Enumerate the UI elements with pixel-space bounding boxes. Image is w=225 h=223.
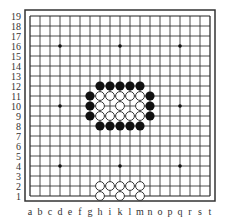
black-stone-h12[interactable]	[95, 81, 104, 90]
white-stone-k11[interactable]	[116, 92, 125, 101]
column-label-r: r	[188, 206, 192, 217]
black-stone-k8[interactable]	[115, 121, 124, 130]
row-label-14: 14	[11, 61, 21, 72]
column-label-g: g	[88, 206, 93, 217]
column-label-e: e	[68, 206, 73, 217]
row-label-13: 13	[11, 71, 21, 82]
white-stone-l9[interactable]	[126, 112, 135, 121]
go-board[interactable]: 12345678910111213141516171819 abcdefghik…	[0, 0, 225, 223]
white-stone-k1[interactable]	[116, 192, 125, 201]
white-stone-m11[interactable]	[136, 92, 145, 101]
row-label-7: 7	[16, 131, 21, 142]
white-stone-i11[interactable]	[106, 92, 115, 101]
row-label-11: 11	[11, 91, 21, 102]
black-stone-l12[interactable]	[125, 81, 134, 90]
white-stone-m1[interactable]	[136, 192, 145, 201]
white-stone-k10[interactable]	[116, 102, 125, 111]
row-labels: 12345678910111213141516171819	[11, 11, 21, 202]
column-label-q: q	[178, 206, 183, 217]
black-stone-k12[interactable]	[115, 81, 124, 90]
white-stone-h10[interactable]	[96, 102, 105, 111]
white-stone-l2[interactable]	[126, 182, 135, 191]
white-stone-m2[interactable]	[136, 182, 145, 191]
black-stone-m12[interactable]	[135, 81, 144, 90]
row-label-12: 12	[11, 81, 21, 92]
white-stone-l11[interactable]	[126, 92, 135, 101]
row-label-4: 4	[16, 161, 21, 172]
row-label-2: 2	[16, 181, 21, 192]
row-label-19: 19	[11, 11, 21, 22]
column-label-s: s	[198, 206, 202, 217]
black-stone-g10[interactable]	[85, 101, 94, 110]
black-stone-n11[interactable]	[145, 91, 154, 100]
black-stone-g9[interactable]	[85, 111, 94, 120]
star-point-q10	[178, 104, 182, 108]
white-stone-i9[interactable]	[106, 112, 115, 121]
star-point-d10	[58, 104, 62, 108]
white-stone-k9[interactable]	[116, 112, 125, 121]
black-stone-n10[interactable]	[145, 101, 154, 110]
column-label-a: a	[28, 206, 33, 217]
column-label-c: c	[48, 206, 53, 217]
white-stone-h1[interactable]	[96, 192, 105, 201]
row-label-18: 18	[11, 21, 21, 32]
row-label-15: 15	[11, 51, 21, 62]
black-stone-n9[interactable]	[145, 111, 154, 120]
column-labels: abcdefghiklmnopqrst	[28, 206, 212, 217]
black-stone-i8[interactable]	[105, 121, 114, 130]
star-point-d16	[58, 44, 62, 48]
column-label-d: d	[58, 206, 63, 217]
column-label-i: i	[109, 206, 112, 217]
star-point-d4	[58, 164, 62, 168]
black-stone-i12[interactable]	[105, 81, 114, 90]
star-point-q4	[178, 164, 182, 168]
row-label-3: 3	[16, 171, 21, 182]
row-label-16: 16	[11, 41, 21, 52]
row-label-17: 17	[11, 31, 21, 42]
column-label-h: h	[98, 206, 103, 217]
star-point-k4	[118, 164, 122, 168]
column-label-n: n	[148, 206, 153, 217]
column-label-k: k	[118, 206, 123, 217]
black-stone-g11[interactable]	[85, 91, 94, 100]
row-label-1: 1	[16, 191, 21, 202]
white-stone-m10[interactable]	[136, 102, 145, 111]
column-label-t: t	[209, 206, 212, 217]
row-label-10: 10	[11, 101, 21, 112]
white-stone-k2[interactable]	[116, 182, 125, 191]
column-label-m: m	[136, 206, 144, 217]
column-label-o: o	[158, 206, 163, 217]
black-stone-m8[interactable]	[135, 121, 144, 130]
row-label-9: 9	[16, 111, 21, 122]
row-label-5: 5	[16, 151, 21, 162]
white-stone-i2[interactable]	[106, 182, 115, 191]
black-stone-l8[interactable]	[125, 121, 134, 130]
star-point-q16	[178, 44, 182, 48]
row-label-6: 6	[16, 141, 21, 152]
column-label-b: b	[38, 206, 43, 217]
row-label-8: 8	[16, 121, 21, 132]
column-label-p: p	[168, 206, 173, 217]
white-stone-h11[interactable]	[96, 92, 105, 101]
column-label-l: l	[129, 206, 132, 217]
white-stone-m9[interactable]	[136, 112, 145, 121]
white-stone-h2[interactable]	[96, 182, 105, 191]
white-stone-h9[interactable]	[96, 112, 105, 121]
black-stone-h8[interactable]	[95, 121, 104, 130]
star-point-k16	[118, 44, 122, 48]
column-label-f: f	[78, 206, 82, 217]
